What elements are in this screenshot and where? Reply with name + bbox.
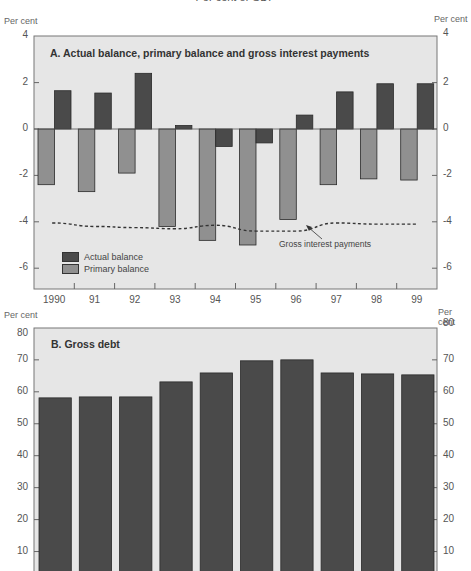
- panel-a-year-label: 99: [397, 294, 437, 305]
- primary-balance-bar: [119, 129, 136, 173]
- actual-balance-bar: [377, 84, 394, 129]
- panel-a-left-tick-label: 0: [4, 122, 28, 133]
- primary-balance-bar: [320, 129, 337, 185]
- panel-a-right-tick-label: 0: [443, 122, 467, 133]
- actual-balance-bar: [95, 93, 112, 129]
- panel-a-year-label: 94: [195, 294, 235, 305]
- panel-b-right-tick-label: 60: [443, 385, 467, 396]
- gross-debt-bar: [321, 373, 353, 571]
- panel-a-year-label: 97: [316, 294, 356, 305]
- panel-b-right-tick-label: 80: [443, 317, 467, 328]
- panel-b-left-tick-label: 60: [4, 385, 28, 396]
- panel-b-title: B. Gross debt: [51, 338, 120, 350]
- panel-b-right-tick-label: 10: [443, 545, 467, 556]
- panel-a-right-tick-label: -2: [443, 168, 467, 179]
- panel-b-left-tick-label: 30: [4, 481, 28, 492]
- chart-canvas: [0, 0, 471, 571]
- primary-balance-bar: [199, 129, 216, 240]
- legend-swatch-primary-icon: [62, 264, 79, 274]
- panel-a-right-tick-label: -6: [443, 261, 467, 272]
- panel-a-right-tick-label: 4: [443, 27, 467, 38]
- gross-debt-bar: [361, 374, 393, 571]
- actual-balance-bar: [175, 126, 192, 129]
- legend-swatch-actual-icon: [62, 252, 79, 262]
- panel-b-left-tick-label: 80: [4, 327, 28, 338]
- panel-a-year-label: 92: [115, 294, 155, 305]
- panel-b-right-tick-label: 70: [443, 353, 467, 364]
- panel-b-left-tick-label: 10: [4, 545, 28, 556]
- panel-a-legend: Actual balance Primary balance: [62, 252, 149, 274]
- panel-b-left-tick-label: 50: [4, 417, 28, 428]
- primary-balance-bar: [159, 129, 176, 226]
- panel-a-year-label: 93: [155, 294, 195, 305]
- legend-item-actual-balance: Actual balance: [62, 252, 149, 262]
- legend-label-primary: Primary balance: [84, 264, 149, 274]
- primary-balance-bar: [78, 129, 95, 192]
- actual-balance-bar: [256, 129, 273, 143]
- gross-debt-bar: [281, 360, 313, 571]
- primary-balance-bar: [240, 129, 257, 245]
- panel-a-left-tick-label: 4: [4, 29, 28, 40]
- panel-b-right-tick-label: 40: [443, 449, 467, 460]
- gross-debt-bar: [120, 397, 152, 571]
- panel-a-year-label: 96: [276, 294, 316, 305]
- gross-debt-bar: [39, 398, 71, 571]
- panel-a-left-tick-label: -4: [4, 215, 28, 226]
- primary-balance-bar: [38, 129, 55, 185]
- primary-balance-bar: [401, 129, 418, 180]
- legend-item-primary-balance: Primary balance: [62, 264, 149, 274]
- panel-a-right-tick-label: -4: [443, 215, 467, 226]
- panel-a-year-label: 1990: [34, 294, 74, 305]
- primary-balance-bar: [360, 129, 377, 179]
- primary-balance-bar: [280, 129, 297, 219]
- panel-a-year-label: 91: [74, 294, 114, 305]
- actual-balance-bar: [337, 92, 354, 129]
- panel-a-left-tick-label: -6: [4, 261, 28, 272]
- gross-debt-bar: [241, 361, 273, 571]
- panel-b-right-tick-label: 20: [443, 513, 467, 524]
- panel-b-right-tick-label: 50: [443, 417, 467, 428]
- legend-label-actual: Actual balance: [84, 252, 143, 262]
- gross-debt-bar: [200, 373, 232, 571]
- actual-balance-bar: [135, 73, 152, 129]
- gross-debt-bar: [402, 375, 434, 571]
- actual-balance-bar: [216, 129, 233, 146]
- panel-a-left-tick-label: 2: [4, 76, 28, 87]
- panel-a-title: A. Actual balance, primary balance and g…: [50, 47, 369, 59]
- panel-b-left-tick-label: 40: [4, 449, 28, 460]
- gross-debt-bar: [160, 382, 192, 571]
- gross-debt-bar: [79, 397, 111, 571]
- panel-a-left-tick-label: -2: [4, 168, 28, 179]
- panel-b-left-tick-label: 20: [4, 513, 28, 524]
- gross-interest-annotation: Gross interest payments: [279, 239, 371, 249]
- panel-a-year-label: 95: [236, 294, 276, 305]
- panel-b-left-tick-label: 70: [4, 353, 28, 364]
- panel-a-year-label: 98: [357, 294, 397, 305]
- panel-a-right-tick-label: 2: [443, 76, 467, 87]
- actual-balance-bar: [55, 91, 72, 129]
- panel-b-right-tick-label: 30: [443, 481, 467, 492]
- actual-balance-bar: [417, 84, 434, 129]
- actual-balance-bar: [296, 115, 313, 129]
